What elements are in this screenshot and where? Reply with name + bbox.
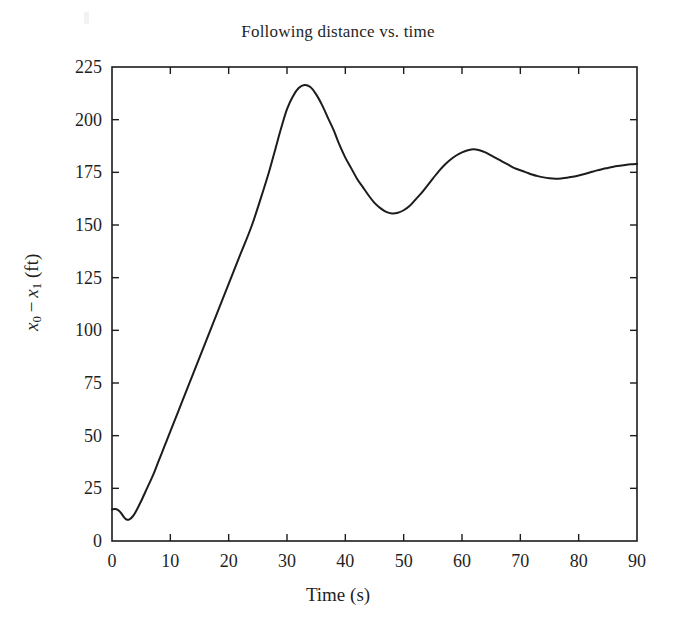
y-axis-minus: − bbox=[21, 301, 42, 312]
axes-frame bbox=[112, 67, 637, 541]
y-tick-label-100: 100 bbox=[40, 320, 102, 341]
x-tick-label-70: 70 bbox=[511, 551, 529, 572]
x-tick-label-80: 80 bbox=[570, 551, 588, 572]
x-tick-label-30: 30 bbox=[278, 551, 296, 572]
x-tick-label-50: 50 bbox=[395, 551, 413, 572]
y-axis-space-2 bbox=[21, 298, 42, 302]
y-axis-space-3 bbox=[21, 278, 42, 283]
axis-ticks bbox=[112, 67, 637, 541]
y-tick-label-0: 0 bbox=[40, 531, 102, 552]
x-tick-label-90: 90 bbox=[628, 551, 646, 572]
data-series-group bbox=[112, 85, 637, 520]
chart-figure: Following distance vs. time x0 − x1 (ft)… bbox=[0, 0, 676, 636]
chart-title: Following distance vs. time bbox=[0, 22, 676, 42]
y-tick-label-75: 75 bbox=[40, 373, 102, 394]
x-tick-label-10: 10 bbox=[161, 551, 179, 572]
y-tick-label-25: 25 bbox=[40, 478, 102, 499]
x-tick-label-20: 20 bbox=[220, 551, 238, 572]
series-line-following-distance bbox=[112, 85, 637, 520]
y-tick-label-125: 125 bbox=[40, 267, 102, 288]
y-tick-label-200: 200 bbox=[40, 109, 102, 130]
x-tick-label-0: 0 bbox=[108, 551, 117, 572]
y-axis-operator bbox=[21, 312, 42, 316]
y-tick-label-175: 175 bbox=[40, 162, 102, 183]
axes-box bbox=[112, 67, 637, 541]
x-tick-label-40: 40 bbox=[336, 551, 354, 572]
y-tick-label-225: 225 bbox=[40, 57, 102, 78]
y-tick-label-50: 50 bbox=[40, 425, 102, 446]
y-axis-unit: (ft) bbox=[21, 254, 42, 278]
y-axis-var-1: x bbox=[21, 322, 42, 330]
x-tick-label-60: 60 bbox=[453, 551, 471, 572]
y-tick-label-150: 150 bbox=[40, 215, 102, 236]
x-axis-label: Time (s) bbox=[0, 584, 676, 606]
y-axis-var-2: x bbox=[21, 289, 42, 297]
